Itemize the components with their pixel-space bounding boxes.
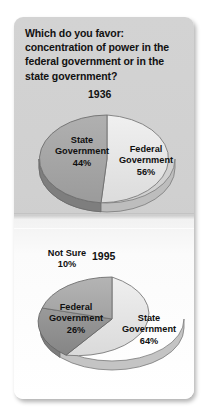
pie-1995-label-federal: Federal Government 26% bbox=[36, 302, 116, 336]
question-line-4: state government? bbox=[25, 69, 189, 83]
chart-panel-1995: 1995 bbox=[14, 228, 194, 399]
pie-1936-label-state-line2: Government bbox=[55, 146, 109, 156]
pie-1995-label-notsure: Not Sure 10% bbox=[34, 248, 100, 271]
pie-1995-label-federal-line1: Federal bbox=[60, 302, 93, 312]
pie-1995-label-notsure-pct: 10% bbox=[34, 259, 100, 270]
pie-1936-label-federal-line2: Government bbox=[119, 155, 173, 165]
question-line-3: federal government or in the bbox=[25, 54, 189, 68]
pie-1995-label-federal-line2: Government bbox=[49, 313, 103, 323]
chart-panel-1936: Which do you favor: concentration of pow… bbox=[14, 17, 194, 228]
question-line-1: Which do you favor: bbox=[25, 26, 189, 40]
pie-1995-label-state-line2: Government bbox=[122, 324, 176, 334]
pie-1995-label-federal-pct: 26% bbox=[36, 325, 116, 336]
question-line-2: concentration of power in the bbox=[25, 40, 189, 54]
pie-1995-label-notsure-line1: Not Sure bbox=[48, 248, 86, 258]
pie-1995-label-state: State Government 64% bbox=[110, 313, 188, 347]
pie-1995-label-state-line1: State bbox=[138, 313, 160, 323]
pie-1995-label-state-pct: 64% bbox=[110, 336, 188, 347]
pie-1936-label-federal: Federal Government 56% bbox=[106, 144, 186, 178]
poll-question: Which do you favor: concentration of pow… bbox=[25, 26, 189, 83]
chart-year-1936: 1936 bbox=[88, 88, 111, 100]
pie-1936-label-federal-pct: 56% bbox=[106, 167, 186, 178]
poll-card: Which do you favor: concentration of pow… bbox=[14, 17, 194, 399]
pie-1936-label-state-line1: State bbox=[71, 135, 93, 145]
pie-1936-label-federal-line1: Federal bbox=[130, 144, 163, 154]
